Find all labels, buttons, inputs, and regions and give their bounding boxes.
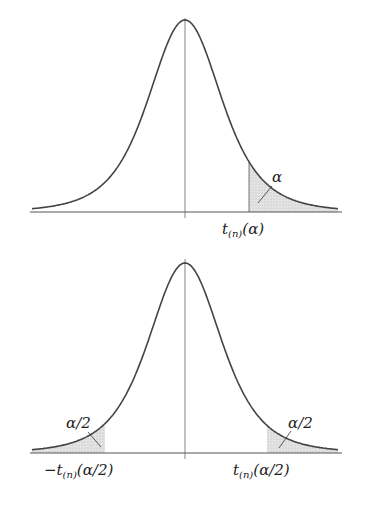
right-tail-area-label: α/2 (288, 414, 313, 432)
bottom-plot: α/2 α/2 −t(n)(α/2) t(n)(α/2) (30, 259, 342, 480)
left-critical-value-label: −t(n)(α/2) (44, 461, 113, 480)
tail-area-label: α (272, 168, 282, 186)
critical-value-label: t(n)(α) (222, 220, 264, 239)
t-distribution-diagram: α t(n)(α) α/2 α/2 −t(n)(α/2) t(n)(α/2) (0, 0, 366, 522)
left-tail-area-label: α/2 (66, 414, 91, 432)
right-tail-shade (249, 162, 338, 212)
right-critical-value-label: t(n)(α/2) (233, 461, 290, 480)
top-plot: α t(n)(α) (30, 18, 342, 239)
